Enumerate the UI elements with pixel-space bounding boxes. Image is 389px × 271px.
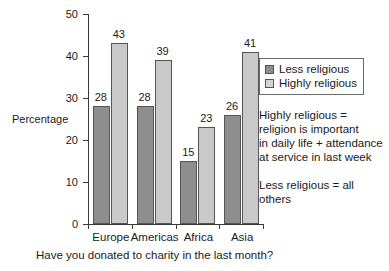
legend-item-highly-religious[interactable]: Highly religious: [265, 76, 357, 90]
bar[interactable]: [155, 60, 172, 224]
annotation-highly-religious-definition: Highly religious = religion is important…: [259, 108, 383, 164]
legend-label-highly-religious: Highly religious: [279, 77, 357, 89]
bar-value-label: 39: [150, 46, 176, 57]
bar-value-label: 23: [193, 113, 219, 124]
y-tick-label: 50: [18, 9, 78, 20]
y-tick-label: 10: [18, 177, 78, 188]
annotation-less-religious-note: Less religious = all others: [259, 178, 389, 206]
legend-item-less-religious[interactable]: Less religious: [265, 62, 357, 76]
x-tick-mark: [219, 224, 220, 229]
bar-value-label: 41: [237, 38, 263, 49]
bar-group: 1523: [180, 14, 216, 224]
bar[interactable]: [111, 43, 128, 224]
plot-area: 2843283915232641: [88, 14, 263, 224]
legend-label-less-religious: Less religious: [279, 63, 349, 75]
y-tick-label: 40: [18, 51, 78, 62]
y-tick-label: 30: [18, 93, 78, 104]
legend-swatch-icon-less-religious: [265, 65, 274, 74]
x-category-label: Asia: [202, 231, 282, 244]
bar-group: 2641: [224, 14, 260, 224]
bar-value-label: 43: [106, 29, 132, 40]
bar[interactable]: [224, 115, 241, 224]
x-tick-mark: [132, 224, 133, 229]
bar[interactable]: [180, 161, 197, 224]
y-tick-label: 0: [18, 219, 78, 230]
bar-group: 2843: [93, 14, 129, 224]
bar[interactable]: [93, 106, 110, 224]
legend-swatch-icon-highly-religious: [265, 79, 274, 88]
y-tick-label: 20: [18, 135, 78, 146]
bar-group: 2839: [137, 14, 173, 224]
y-axis-title: Percentage: [12, 113, 68, 125]
bar-chart: Percentage Have you donated to charity i…: [0, 0, 389, 271]
bar[interactable]: [242, 52, 259, 224]
x-tick-mark: [176, 224, 177, 229]
x-tick-mark: [263, 224, 264, 229]
chart-legend: Less religious Highly religious: [259, 58, 364, 95]
bar[interactable]: [198, 127, 215, 224]
bar[interactable]: [137, 106, 154, 224]
x-axis-title: Have you donated to charity in the last …: [36, 249, 273, 262]
x-tick-mark: [88, 224, 89, 229]
